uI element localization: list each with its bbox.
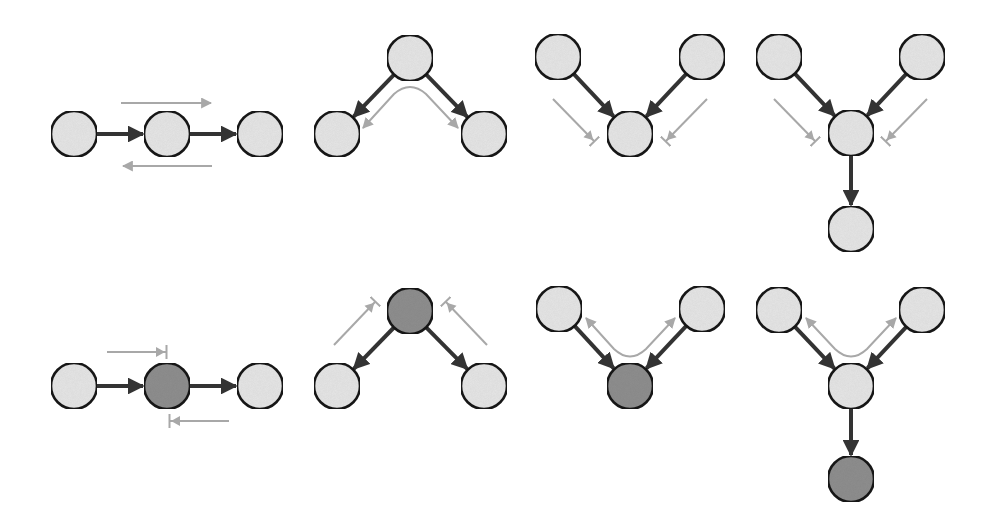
unobserved-node [828,206,874,252]
panel-chain-unobserved-nodes [51,111,283,157]
panel-fork-observed-nodes [314,288,507,409]
unobserved-node [237,363,283,409]
observed-node [607,363,653,409]
observed-node [828,456,874,502]
panel-fork-unobserved-nodes [314,35,507,157]
blocked-flow-arrow [666,99,707,141]
unobserved-node [828,110,874,156]
observed-node [144,363,190,409]
unobserved-node [461,111,507,157]
edge-arrow-a-to-c [426,327,467,369]
blocked-flow-arrow [553,99,594,141]
unobserved-node [237,111,283,157]
panel-collider-unobserved-nodes [535,34,725,157]
unobserved-node [756,34,802,80]
edge-arrow-b-to-c [646,326,686,369]
unobserved-node [51,111,97,157]
information-flow-layer [107,87,927,421]
unobserved-node [314,363,360,409]
edge-arrow-a-to-c [795,327,835,369]
edge-arrow-b-to-c [646,74,686,117]
unobserved-node [756,287,802,333]
unobserved-node [314,111,360,157]
panel-collider-descendant-observed-nodes [756,287,945,502]
unobserved-node [899,34,945,80]
panel-collider-descendant-unobserved-nodes [756,34,945,252]
blocked-flow-arrow [334,302,375,345]
edge-arrow-a-to-c [795,74,835,116]
unobserved-node [607,111,653,157]
unobserved-node [679,286,725,332]
nodes-layer [51,34,945,502]
unobserved-node [679,34,725,80]
observed-node [387,288,433,334]
unobserved-node [536,286,582,332]
edge-arrow-a-to-c [575,326,614,368]
blocked-flow-arrow [774,99,815,141]
unobserved-node [387,35,433,81]
unobserved-node [144,111,190,157]
unobserved-node [899,287,945,333]
panel-chain-observed-nodes [51,363,283,409]
unobserved-node [535,34,581,80]
panel-collider-observed-nodes [536,286,725,409]
unobserved-node [828,363,874,409]
unobserved-node [461,363,507,409]
edge-arrow-b-to-c [867,327,906,369]
edge-arrow-a-to-b [354,327,394,368]
blocked-flow-arrow [886,99,927,141]
edge-arrow-a-to-c [574,74,614,117]
edge-arrow-a-to-c [426,74,467,116]
edge-arrow-b-to-c [867,74,906,116]
d-separation-diagram [0,0,993,523]
unobserved-node [51,363,97,409]
blocked-flow-arrow [446,302,487,345]
edge-arrow-a-to-b [354,75,394,117]
